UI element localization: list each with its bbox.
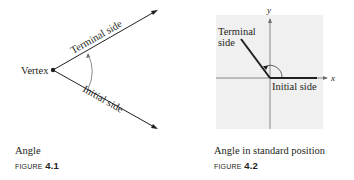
- x-axis-label: x: [330, 73, 335, 83]
- figure-4-1-caption: Angle: [15, 145, 41, 156]
- figure-number: 4.2: [244, 160, 258, 171]
- terminal-side-ray: [53, 11, 156, 70]
- terminal-side-label-line1: Terminal: [218, 26, 256, 37]
- initial-arrowhead-icon: [151, 124, 158, 129]
- terminal-side-label-line2: side: [218, 37, 235, 48]
- initial-side-label: Initial side: [272, 81, 317, 92]
- figure-4-1-number: FIGURE 4.1: [15, 160, 59, 171]
- figure-4-1-angle-diagram: Vertex Terminal side Initial side: [0, 0, 180, 135]
- initial-side-label: Initial side: [81, 83, 126, 115]
- x-axis-arrowhead-icon: [323, 76, 328, 80]
- figure-word: FIGURE: [15, 163, 43, 170]
- figure-number: 4.1: [45, 160, 59, 171]
- terminal-side-label: Terminal side: [69, 18, 125, 56]
- figure-4-2-caption: Angle in standard position: [214, 145, 325, 156]
- vertex-label: Vertex: [21, 65, 49, 76]
- figure-4-2-standard-position-diagram: x y Terminal side Initial side: [180, 0, 354, 135]
- y-axis-label: y: [266, 5, 271, 15]
- vertex-point: [51, 68, 55, 72]
- figure-4-2-number: FIGURE 4.2: [214, 160, 258, 171]
- figure-word: FIGURE: [214, 163, 242, 170]
- terminal-arrowhead-icon: [151, 10, 158, 15]
